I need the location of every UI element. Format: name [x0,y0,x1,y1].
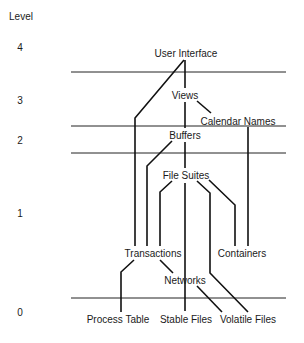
node-volatile-files: Volatile Files [220,314,276,326]
edge-file-suites-to-transactions [160,181,172,246]
node-stable-files: Stable Files [160,314,212,326]
edge-networks-to-volatile-files [197,286,222,312]
edge-views-to-calendar-names [197,101,211,113]
diagram-canvas [0,0,304,343]
edge-file-suites-to-containers [209,180,235,246]
node-process-table: Process Table [87,314,150,326]
node-buffers: Buffers [169,130,201,142]
node-containers: Containers [218,248,266,260]
node-views: Views [172,90,199,102]
level-label-2: 2 [17,135,23,147]
node-user-interface: User Interface [155,48,218,60]
node-file-suites: File Suites [163,170,210,182]
level-label-3: 3 [17,95,23,107]
edge-file-suites-to-volatile-files [197,181,248,312]
node-calendar-names: Calendar Names [200,116,275,128]
level-separators [71,72,286,298]
level-label-0: 0 [17,307,23,319]
edge-transactions-to-networks [160,260,173,273]
node-transactions: Transactions [125,248,182,260]
node-networks: Networks [164,275,206,287]
axis-title: Level [9,11,33,23]
level-label-1: 1 [17,208,23,220]
edge-transactions-to-process-table [121,260,134,312]
level-label-4: 4 [17,42,23,54]
